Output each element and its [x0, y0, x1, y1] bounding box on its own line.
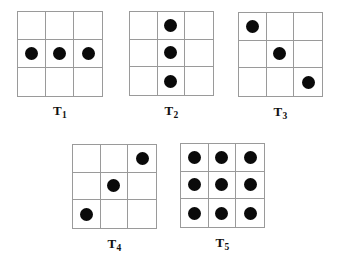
filled-dot-icon: [53, 47, 66, 60]
grid-cell[interactable]: [294, 68, 322, 96]
empty-cell-marker: [273, 20, 286, 33]
empty-cell-marker: [25, 19, 38, 32]
grid-cell[interactable]: [181, 144, 209, 172]
empty-cell-marker: [193, 46, 206, 59]
pattern-label-subscript: 3: [283, 111, 288, 121]
empty-cell-marker: [82, 76, 95, 89]
grid-cell[interactable]: [46, 40, 74, 68]
grid-cell[interactable]: [73, 173, 101, 201]
pattern-label-base: T: [215, 235, 224, 250]
filled-dot-icon: [25, 47, 38, 60]
filled-dot-icon: [244, 207, 257, 220]
filled-dot-icon: [80, 208, 93, 221]
grid-cell[interactable]: [209, 172, 237, 200]
grid-cell[interactable]: [130, 67, 158, 95]
empty-cell-marker: [136, 179, 149, 192]
figure-canvas: T1T2T3T4T5: [0, 0, 337, 271]
filled-dot-icon: [246, 20, 259, 33]
pattern-unit-t5: T5: [180, 143, 265, 228]
grid-cell[interactable]: [18, 40, 46, 68]
grid-cell[interactable]: [74, 12, 102, 40]
grid-cell[interactable]: [46, 68, 74, 96]
filled-dot-icon: [215, 151, 228, 164]
grid-cell[interactable]: [128, 173, 156, 201]
grid-t4: [72, 144, 157, 229]
filled-dot-icon: [273, 47, 286, 60]
grid-cell[interactable]: [239, 13, 267, 41]
pattern-label-t5: T5: [180, 235, 265, 252]
pattern-unit-t2: T2: [129, 11, 214, 96]
filled-dot-icon: [215, 178, 228, 191]
grid-cell[interactable]: [130, 40, 158, 68]
empty-cell-marker: [137, 19, 150, 32]
pattern-unit-t3: T3: [238, 12, 323, 97]
grid-cell[interactable]: [209, 144, 237, 172]
grid-cell[interactable]: [236, 144, 264, 172]
pattern-label-base: T: [273, 104, 282, 119]
grid-cell[interactable]: [74, 68, 102, 96]
empty-cell-marker: [53, 76, 66, 89]
grid-cell[interactable]: [185, 67, 213, 95]
empty-cell-marker: [107, 208, 120, 221]
empty-cell-marker: [82, 19, 95, 32]
pattern-label-subscript: 1: [62, 110, 67, 120]
grid-cell[interactable]: [18, 12, 46, 40]
grid-cell[interactable]: [130, 12, 158, 40]
empty-cell-marker: [246, 76, 259, 89]
grid-cell[interactable]: [101, 200, 129, 228]
empty-cell-marker: [136, 208, 149, 221]
grid-cell[interactable]: [209, 199, 237, 227]
pattern-unit-t1: T1: [17, 11, 103, 97]
pattern-unit-t4: T4: [72, 144, 157, 229]
pattern-label-t1: T1: [17, 103, 103, 120]
pattern-label-t3: T3: [238, 104, 323, 121]
grid-cell[interactable]: [128, 145, 156, 173]
grid-t1: [17, 11, 103, 97]
grid-cell[interactable]: [236, 199, 264, 227]
grid-t3: [238, 12, 323, 97]
grid-cell[interactable]: [181, 199, 209, 227]
empty-cell-marker: [302, 20, 315, 33]
grid-cell[interactable]: [267, 41, 295, 69]
pattern-label-base: T: [164, 103, 173, 118]
grid-cell[interactable]: [74, 40, 102, 68]
filled-dot-icon: [107, 179, 120, 192]
grid-cell[interactable]: [101, 145, 129, 173]
grid-cell[interactable]: [185, 40, 213, 68]
grid-cell[interactable]: [185, 12, 213, 40]
empty-cell-marker: [25, 76, 38, 89]
grid-cell[interactable]: [158, 67, 186, 95]
filled-dot-icon: [164, 75, 177, 88]
grid-cell[interactable]: [18, 68, 46, 96]
grid-cell[interactable]: [294, 41, 322, 69]
filled-dot-icon: [215, 207, 228, 220]
filled-dot-icon: [188, 178, 201, 191]
grid-cell[interactable]: [46, 12, 74, 40]
empty-cell-marker: [80, 179, 93, 192]
grid-cell[interactable]: [101, 173, 129, 201]
pattern-label-base: T: [53, 103, 62, 118]
grid-cell[interactable]: [239, 68, 267, 96]
empty-cell-marker: [246, 47, 259, 60]
grid-cell[interactable]: [73, 200, 101, 228]
empty-cell-marker: [193, 19, 206, 32]
empty-cell-marker: [273, 76, 286, 89]
grid-cell[interactable]: [181, 172, 209, 200]
grid-cell[interactable]: [239, 41, 267, 69]
grid-cell[interactable]: [158, 12, 186, 40]
filled-dot-icon: [164, 46, 177, 59]
grid-cell[interactable]: [128, 200, 156, 228]
filled-dot-icon: [244, 151, 257, 164]
empty-cell-marker: [53, 19, 66, 32]
pattern-label-subscript: 5: [225, 242, 230, 252]
filled-dot-icon: [188, 151, 201, 164]
empty-cell-marker: [302, 47, 315, 60]
grid-cell[interactable]: [267, 13, 295, 41]
grid-cell[interactable]: [236, 172, 264, 200]
pattern-label-subscript: 2: [174, 110, 179, 120]
grid-cell[interactable]: [73, 145, 101, 173]
filled-dot-icon: [302, 76, 315, 89]
grid-cell[interactable]: [158, 40, 186, 68]
grid-cell[interactable]: [294, 13, 322, 41]
grid-cell[interactable]: [267, 68, 295, 96]
